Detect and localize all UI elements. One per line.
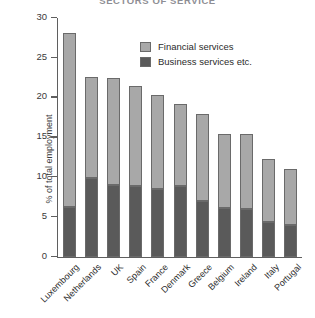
legend-item: Financial services xyxy=(140,41,252,52)
y-axis-tick-label: 20 xyxy=(36,90,47,101)
bar-segment-business-services xyxy=(85,178,98,257)
y-axis-tick: 25 xyxy=(51,57,57,58)
chart-title: SECTORS OF SERVICE xyxy=(0,0,315,5)
legend-swatch-icon xyxy=(140,42,151,52)
y-axis-tick-label: 5 xyxy=(42,210,47,221)
bar-segment-business-services xyxy=(174,186,187,257)
y-axis-tick: 15 xyxy=(51,136,57,137)
legend-label: Financial services xyxy=(158,41,234,52)
bar-segment-business-services xyxy=(262,222,275,257)
legend-item: Business services etc. xyxy=(140,56,252,67)
y-axis-tick-label: 0 xyxy=(42,250,47,261)
bar-segment-business-services xyxy=(218,208,231,257)
chart-legend: Financial servicesBusiness services etc. xyxy=(140,41,252,71)
y-axis-tick-label: 30 xyxy=(36,11,47,22)
bar-segment-business-services xyxy=(240,209,253,257)
bar-segment-financial-services xyxy=(262,159,275,222)
bar-segment-financial-services xyxy=(240,134,253,209)
bar-segment-financial-services xyxy=(107,78,120,186)
bar-segment-financial-services xyxy=(196,114,209,201)
y-axis-tick: 0 xyxy=(51,256,57,257)
bar-stack xyxy=(284,18,297,257)
x-axis-label: Italy xyxy=(262,262,281,281)
x-axis-label: UK xyxy=(110,262,126,278)
bar-segment-business-services xyxy=(196,201,209,257)
bar-segment-financial-services xyxy=(284,169,297,225)
bar-segment-business-services xyxy=(107,185,120,257)
bar-stack xyxy=(262,18,275,257)
bar-stack xyxy=(107,18,120,257)
y-axis-tick: 5 xyxy=(51,216,57,217)
y-axis-tick-label: 10 xyxy=(36,170,47,181)
legend-label: Business services etc. xyxy=(158,56,252,67)
bar-segment-business-services xyxy=(151,189,164,258)
x-axis-line xyxy=(57,257,302,258)
bar-segment-financial-services xyxy=(218,134,231,207)
bar-segment-financial-services xyxy=(129,86,142,186)
y-axis-tick: 20 xyxy=(51,96,57,97)
legend-swatch-icon xyxy=(140,57,151,67)
y-axis-tick-label: 25 xyxy=(36,51,47,62)
bar-segment-financial-services xyxy=(63,33,76,207)
bar-segment-financial-services xyxy=(151,95,164,188)
y-axis-tick-label: 15 xyxy=(36,130,47,141)
y-axis-tick: 30 xyxy=(51,17,57,18)
bar-segment-financial-services xyxy=(85,77,98,178)
bar-segment-business-services xyxy=(129,186,142,257)
bar-stack xyxy=(63,18,76,257)
bar-segment-business-services xyxy=(63,207,76,257)
y-axis-title: % of total employment xyxy=(44,114,54,203)
y-axis-tick: 10 xyxy=(51,176,57,177)
bar-stack xyxy=(85,18,98,257)
chart-container: SECTORS OF SERVICE % of total employment… xyxy=(0,0,315,318)
x-axis-label: Ireland xyxy=(232,262,259,289)
bar-segment-financial-services xyxy=(174,104,187,186)
bar-segment-business-services xyxy=(284,225,297,257)
